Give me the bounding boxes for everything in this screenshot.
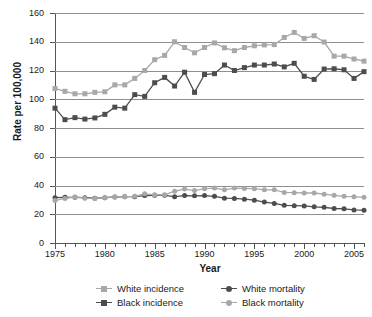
data-point	[112, 82, 117, 87]
data-point	[82, 117, 87, 122]
data-point	[202, 45, 207, 50]
data-point	[262, 187, 267, 192]
y-tick-label: 160	[0, 9, 44, 18]
x-tick-minor	[324, 244, 325, 247]
x-tick-label: 1995	[234, 249, 274, 259]
data-point	[82, 196, 87, 201]
data-point	[182, 70, 187, 75]
x-axis-line	[55, 243, 365, 244]
data-point	[142, 191, 147, 196]
y-tick-label: 80	[0, 124, 44, 133]
data-point	[172, 189, 177, 194]
data-point	[222, 187, 227, 192]
data-point	[332, 193, 337, 198]
data-point	[252, 186, 257, 191]
x-axis-title: Year	[55, 263, 365, 274]
data-point	[252, 63, 257, 68]
x-tick-minor	[135, 244, 136, 247]
data-point	[272, 42, 277, 47]
data-point	[292, 61, 297, 66]
y-tick-label: 140	[0, 37, 44, 46]
data-point	[282, 35, 287, 40]
data-point	[262, 200, 267, 205]
x-tick-minor	[165, 244, 166, 247]
data-point	[322, 67, 327, 72]
x-tick-minor	[65, 244, 66, 247]
x-tick-label: 1985	[135, 249, 175, 259]
data-point	[152, 57, 157, 62]
legend-item-black-incidence[interactable]: Black incidence	[96, 295, 221, 309]
data-point	[53, 198, 58, 203]
x-tick-minor	[364, 244, 365, 247]
data-point	[272, 62, 277, 67]
x-tick-minor	[224, 244, 225, 247]
series-layer	[55, 13, 364, 243]
data-point	[102, 112, 107, 117]
data-point	[242, 197, 247, 202]
data-point	[312, 33, 317, 38]
x-tick-minor	[234, 244, 235, 247]
x-tick-minor	[214, 244, 215, 247]
legend-label: Black incidence	[117, 297, 183, 308]
data-point	[342, 67, 347, 72]
data-point	[222, 196, 227, 201]
y-tick-label: 40	[0, 181, 44, 190]
x-tick-label: 2005	[334, 249, 372, 259]
data-point	[362, 208, 367, 213]
data-point	[232, 186, 237, 191]
data-point	[352, 57, 357, 62]
data-point	[182, 187, 187, 192]
x-tick-minor	[75, 244, 76, 247]
data-point	[122, 82, 127, 87]
data-point	[53, 86, 58, 91]
data-point	[192, 50, 197, 55]
data-point	[142, 68, 147, 73]
data-point	[112, 105, 117, 110]
x-tick-minor	[185, 244, 186, 247]
data-point	[232, 68, 237, 73]
legend-marker-circle-icon	[221, 299, 237, 306]
legend-item-black-mortality[interactable]: Black mortality	[221, 295, 346, 309]
data-point	[272, 187, 277, 192]
data-point	[302, 203, 307, 208]
y-tick-label: 0	[0, 239, 44, 248]
data-point	[262, 42, 267, 47]
data-point	[132, 194, 137, 199]
data-point	[172, 84, 177, 89]
legend-item-white-incidence[interactable]: White incidence	[96, 281, 221, 295]
series-white-mortality	[53, 193, 367, 213]
series-line	[55, 32, 364, 93]
data-point	[362, 69, 367, 74]
series-white-incidence	[53, 30, 367, 96]
y-tick-label: 60	[0, 152, 44, 161]
x-tick-minor	[264, 244, 265, 247]
data-point	[152, 80, 157, 85]
legend-label: White incidence	[117, 283, 184, 294]
data-point	[272, 201, 277, 206]
data-point	[282, 190, 287, 195]
data-point	[332, 54, 337, 59]
data-point	[312, 190, 317, 195]
legend-item-white-mortality[interactable]: White mortality	[221, 281, 346, 295]
x-tick-minor	[95, 244, 96, 247]
data-point	[352, 194, 357, 199]
data-point	[322, 192, 327, 197]
x-tick-minor	[284, 244, 285, 247]
data-point	[222, 45, 227, 50]
data-point	[192, 90, 197, 95]
data-point	[302, 36, 307, 41]
data-point	[182, 45, 187, 50]
data-point	[292, 30, 297, 35]
x-tick-minor	[344, 244, 345, 247]
data-point	[342, 194, 347, 199]
legend-marker-square-icon	[96, 299, 112, 306]
data-point	[72, 115, 77, 120]
x-tick-minor	[294, 244, 295, 247]
data-point	[122, 194, 127, 199]
x-tick-label: 1990	[185, 249, 225, 259]
data-point	[82, 91, 87, 96]
x-tick-label: 1975	[35, 249, 75, 259]
data-point	[202, 186, 207, 191]
data-point	[92, 90, 97, 95]
data-point	[302, 190, 307, 195]
